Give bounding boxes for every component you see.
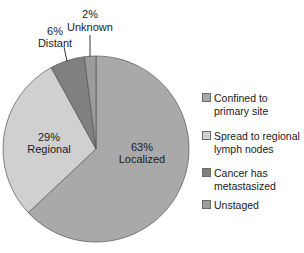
regional-name-label: Regional — [27, 143, 70, 155]
pie-chart: 63% Localized 29% Regional 6% Distant 2%… — [0, 0, 304, 253]
distant-pct-label: 6% — [47, 25, 63, 37]
legend-swatch — [202, 131, 211, 140]
legend-swatch — [202, 200, 211, 209]
localized-pct-label: 63% — [131, 141, 153, 153]
legend-item-localized: Confined to primary site — [202, 92, 304, 117]
localized-name-label: Localized — [119, 153, 165, 165]
unknown-pct-label: 2% — [82, 8, 98, 20]
regional-pct-label: 29% — [38, 131, 60, 143]
distant-name-label: Distant — [38, 37, 72, 49]
unknown-name-label: Unknown — [67, 21, 113, 33]
legend-label: Spread to regional lymph nodes — [214, 130, 300, 155]
legend-swatch — [202, 168, 211, 177]
distant-leader-line — [64, 47, 67, 61]
legend-label: Cancer has metastasized — [214, 167, 276, 192]
legend-swatch — [202, 93, 211, 102]
legend-item-unknown: Unstaged — [202, 199, 304, 212]
legend-label: Confined to primary site — [214, 92, 268, 117]
legend-item-regional: Spread to regional lymph nodes — [202, 130, 304, 155]
legend-item-distant: Cancer has metastasized — [202, 167, 304, 192]
legend-label: Unstaged — [214, 199, 259, 212]
